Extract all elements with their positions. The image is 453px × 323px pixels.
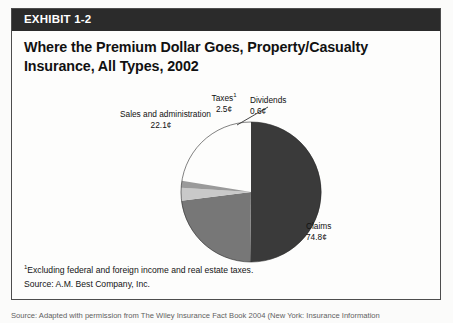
pie-label-claims-name: Claims: [306, 221, 366, 232]
footnote: 1Excluding federal and foreign income an…: [24, 264, 424, 278]
pie-label-claims-value: 74.8¢: [306, 232, 366, 243]
page-caption: Source: Adapted with permission from The…: [11, 311, 453, 321]
pie-graphic: [180, 121, 322, 263]
notes-block: 1Excluding federal and foreign income an…: [24, 264, 424, 291]
source-line: Source: A.M. Best Company, Inc.: [24, 278, 424, 292]
taxes-footnote-marker: 1: [233, 92, 236, 98]
pie-label-taxes-value: 2.5¢: [202, 104, 246, 115]
pie-label-dividends-value: 0.6¢: [250, 106, 306, 117]
pie-label-sales: Sales and administration 22.1¢: [120, 109, 202, 130]
pie-slice-sales: [181, 192, 251, 262]
pie-svg: [180, 121, 322, 263]
pie-label-dividends: Dividends 0.6¢: [250, 95, 306, 116]
pie-label-sales-value: 22.1¢: [120, 120, 202, 131]
pie-label-taxes: Taxes1 2.5¢: [202, 93, 246, 114]
footnote-text: Excluding federal and foreign income and…: [27, 265, 253, 275]
pie-label-claims: Claims 74.8¢: [306, 221, 366, 242]
exhibit-label: EXHIBIT 1-2: [24, 13, 91, 25]
pie-label-taxes-name: Taxes1: [202, 93, 246, 104]
exhibit-page: EXHIBIT 1-2 Where the Premium Dollar Goe…: [0, 0, 453, 323]
pie-chart: Sales and administration 22.1¢ Taxes1 2.…: [12, 81, 442, 266]
exhibit-box: EXHIBIT 1-2 Where the Premium Dollar Goe…: [11, 8, 441, 300]
page-title: Where the Premium Dollar Goes, Property/…: [24, 38, 432, 76]
pie-label-sales-name: Sales and administration: [120, 109, 202, 120]
pie-label-dividends-name: Dividends: [250, 95, 306, 106]
exhibit-header-bar: EXHIBIT 1-2: [12, 9, 440, 31]
